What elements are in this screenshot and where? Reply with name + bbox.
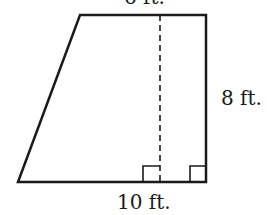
bottom-base-label: 10 ft.: [117, 192, 171, 212]
right-angle-marker-center: [143, 166, 160, 182]
trapezoid-outline: [18, 15, 206, 182]
height-label: 8 ft.: [221, 88, 262, 108]
right-angle-marker-right: [190, 166, 206, 182]
trapezoid-diagram: 6 ft. 8 ft. 10 ft.: [0, 0, 267, 215]
top-base-label: 6 ft.: [124, 0, 165, 7]
